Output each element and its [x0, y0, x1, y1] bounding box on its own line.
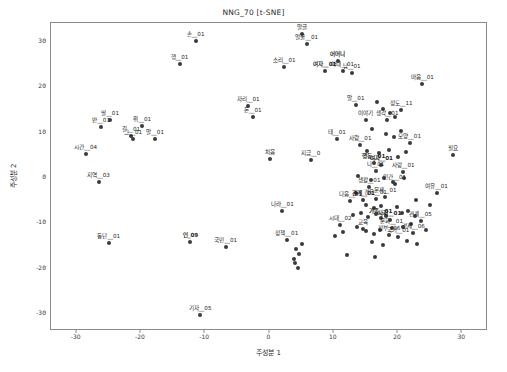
x-tick-label: 0	[267, 333, 271, 340]
data-point-label: 생활__01	[358, 178, 381, 184]
data-point-label: 손__01	[187, 32, 205, 38]
data-point	[381, 243, 385, 247]
data-point	[364, 229, 368, 233]
data-point	[188, 240, 192, 244]
data-point	[268, 157, 272, 161]
y-tick-mark	[43, 130, 46, 131]
data-point-label: 관계__05	[409, 213, 432, 219]
data-point	[224, 245, 228, 249]
x-tick-mark	[461, 330, 462, 333]
data-point	[374, 169, 378, 173]
data-point	[420, 82, 424, 86]
data-point-label: 그__01	[124, 130, 142, 136]
data-point	[293, 261, 297, 265]
data-point	[309, 158, 313, 162]
data-point-label: 문화__01	[380, 219, 403, 225]
data-point	[408, 141, 412, 145]
data-point	[375, 100, 379, 104]
data-point	[251, 115, 255, 119]
data-point	[396, 235, 400, 239]
data-point	[338, 223, 342, 227]
data-point	[415, 242, 419, 246]
y-tick-mark	[43, 311, 46, 312]
x-tick-label: 20	[393, 333, 401, 340]
data-point	[296, 266, 300, 270]
data-point	[405, 239, 409, 243]
data-point-label: 모양__01	[398, 134, 421, 140]
data-point	[297, 252, 301, 256]
tsne-scatter-figure: NNG_70 [t-SNE] 주성분 2 -30-20-100102030 -3…	[0, 0, 507, 372]
data-point	[84, 152, 88, 156]
data-point-label: 기자__05	[189, 306, 212, 312]
data-point-label: 소리__01	[273, 59, 296, 65]
data-point	[399, 108, 403, 112]
data-point	[404, 150, 408, 154]
data-point-label: 여유__01	[425, 184, 448, 190]
data-point	[345, 253, 349, 257]
data-point	[131, 137, 135, 141]
data-point-label: 생각__01	[376, 112, 399, 118]
data-point	[153, 137, 157, 141]
data-point	[374, 197, 378, 201]
plot-area: 손__01말글얼굴__01행__01소리__01어머니여자__01아내__01남…	[50, 22, 487, 330]
data-point-label: 딸__01	[101, 111, 119, 117]
data-point-label: 인_09	[183, 233, 199, 239]
data-point	[387, 148, 391, 152]
data-point-label: 사랑__01	[392, 163, 415, 169]
y-tick-mark	[43, 221, 46, 222]
x-tick-mark	[268, 330, 269, 333]
data-point	[99, 125, 103, 129]
data-point-label: 행__01	[171, 55, 189, 61]
y-tick-mark	[43, 85, 46, 86]
x-tick-mark	[204, 330, 205, 333]
data-point-label: 필요	[448, 146, 458, 152]
data-point-label: 말__01	[347, 96, 365, 102]
x-tick-mark	[397, 330, 398, 333]
data-point-label: 나__01	[367, 162, 385, 168]
x-tick-mark	[139, 330, 140, 333]
x-tick-label: -20	[135, 333, 145, 340]
data-point-label: 사회__01	[378, 211, 401, 217]
data-point-label: 국가__01	[387, 228, 410, 234]
data-point	[348, 199, 352, 203]
data-point-label: 돈__01	[244, 108, 262, 114]
data-point-label: 이야기	[358, 111, 373, 117]
data-point	[354, 103, 358, 107]
data-point-label: 인간__01	[383, 175, 406, 181]
y-axis-tick-labels: -30-20-100102030	[0, 22, 46, 330]
data-point-label: 처음	[265, 150, 275, 156]
data-point-label: 동단__01	[97, 234, 120, 240]
data-point	[194, 39, 198, 43]
data-point	[350, 71, 354, 75]
x-tick-mark	[332, 330, 333, 333]
data-point-label: 태__01	[328, 131, 346, 137]
data-point	[435, 191, 439, 195]
data-point	[341, 230, 345, 234]
data-point	[392, 135, 396, 139]
data-point	[300, 242, 304, 246]
data-point	[365, 149, 369, 153]
data-point	[370, 127, 374, 131]
data-point-label: 말__01	[146, 131, 164, 137]
data-point	[358, 143, 362, 147]
data-point	[373, 255, 377, 259]
data-point-label: 지금__0	[301, 151, 320, 157]
data-point	[292, 257, 296, 261]
data-point	[359, 211, 363, 215]
data-point	[364, 118, 368, 122]
data-point-label: 마음__01	[411, 75, 434, 81]
data-point-label: 시대__02	[329, 216, 352, 222]
data-point	[280, 209, 284, 213]
data-point	[140, 124, 144, 128]
data-point-label: 시간__04	[74, 145, 97, 151]
data-point	[364, 203, 368, 207]
data-point-label: 문제__01	[374, 189, 397, 195]
data-point	[107, 241, 111, 245]
data-point	[411, 231, 415, 235]
data-point	[395, 205, 399, 209]
x-axis-tick-marks	[50, 330, 487, 334]
x-tick-label: 30	[457, 333, 465, 340]
data-point	[451, 153, 455, 157]
data-point	[285, 238, 289, 242]
data-point-label: 어머니	[330, 52, 345, 58]
